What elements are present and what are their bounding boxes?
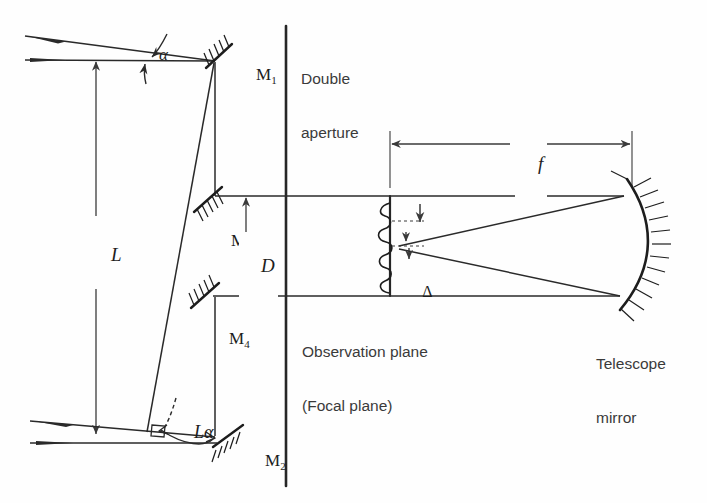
- telescope-mirror: [611, 171, 671, 321]
- observation-plane-label: Observation plane (Focal plane): [302, 306, 428, 452]
- incoming-ray-lower-top: [25, 58, 215, 62]
- mirror-label-m4: M4: [212, 309, 250, 371]
- dimension-label-L-alpha: Lα: [176, 401, 213, 465]
- dimension-label-f: f: [515, 131, 547, 198]
- angle-label-alpha: α: [142, 25, 168, 85]
- dimension-label-D: D: [239, 233, 278, 300]
- dimension-f: [390, 131, 632, 188]
- converging-rays: [399, 196, 624, 296]
- double-aperture-label: Double aperture: [301, 33, 359, 179]
- beam-m1-to-m2: [147, 63, 214, 432]
- figure-canvas: Double aperture Observation plane (Focal…: [0, 0, 707, 503]
- telescope-mirror-label: Telescope mirror: [596, 318, 666, 464]
- mirror-label-m2: M2: [248, 431, 286, 493]
- dimension-label-L: L: [89, 222, 125, 289]
- mirror-m1: [204, 35, 232, 68]
- incoming-ray-upper-top: [25, 36, 215, 61]
- mirror-label-m1: M1: [239, 45, 277, 107]
- fringe-spacing-label-delta: Δ: [407, 264, 432, 321]
